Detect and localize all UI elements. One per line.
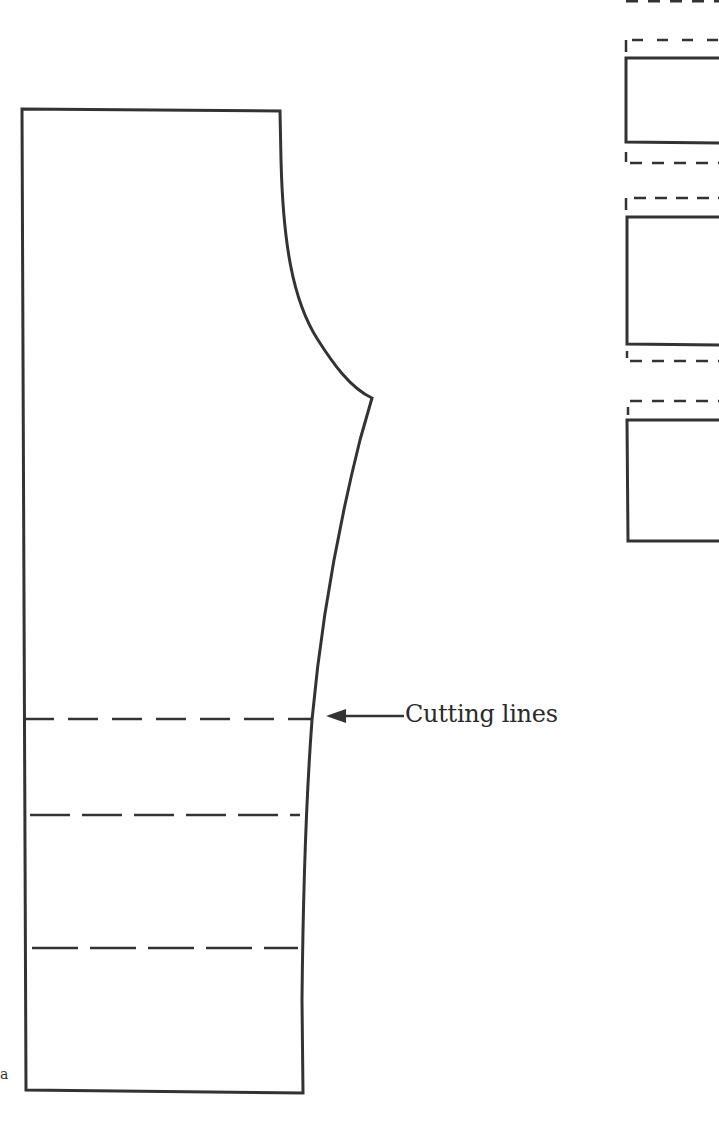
cutting-lines-label: Cutting lines <box>405 700 558 728</box>
margin-mark: a <box>0 1066 8 1082</box>
cut-section-3 <box>627 401 719 541</box>
cut-section-1 <box>626 40 719 163</box>
cut-section-2 <box>626 198 719 361</box>
arrow-left-icon <box>326 709 404 723</box>
pattern-diagram <box>0 0 719 1143</box>
pants-leg-outline <box>22 109 372 1093</box>
